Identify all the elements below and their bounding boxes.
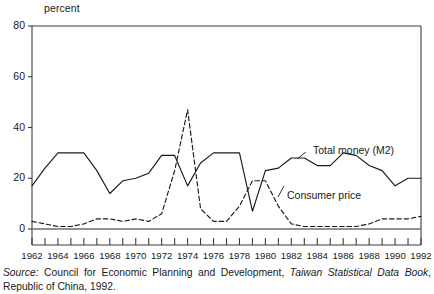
y-axis-tick-marks	[28, 26, 32, 229]
source-label: Source:	[3, 267, 39, 278]
y-axis-tick-label: 40	[3, 121, 25, 133]
series-line	[32, 153, 421, 211]
y-axis-tick-label: 20	[3, 171, 25, 183]
series-line	[32, 110, 421, 227]
x-axis-tick-marks	[32, 238, 421, 245]
source-publication-title: Taiwan Statistical Data Book	[290, 267, 428, 278]
x-axis-tick-label: 1992	[404, 250, 434, 261]
source-text-before: Council for Economic Planning and Develo…	[39, 267, 290, 278]
source-note: Source: Council for Economic Planning an…	[3, 266, 431, 293]
series-annotation-total-money: Total money (M2)	[313, 144, 394, 156]
y-axis-tick-label: 80	[3, 19, 25, 31]
y-axis-tick-label: 0	[3, 222, 25, 234]
chart-figure: percent 020406080 1962196419661968197019…	[0, 0, 434, 294]
series-layer	[32, 110, 421, 227]
y-axis-tick-label: 60	[3, 70, 25, 82]
plot-frame	[32, 26, 421, 245]
series-annotation-consumer-price: Consumer price	[287, 189, 361, 201]
